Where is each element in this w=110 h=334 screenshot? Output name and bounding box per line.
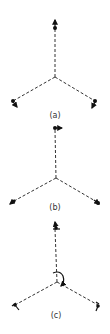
bond-right (57, 282, 98, 305)
bond-right (55, 77, 95, 101)
displacement-arrow-icon (13, 102, 17, 107)
bond-top (55, 130, 56, 178)
rotation-arc-arrow-icon (53, 272, 64, 286)
bond-left (13, 77, 55, 101)
panel-c: (c) (12, 222, 100, 320)
displacement-arrow-icon (15, 305, 19, 310)
bond-left (14, 178, 56, 201)
panel-a: (a) (11, 20, 97, 120)
panel-label: (b) (49, 203, 60, 212)
panel-label: (c) (51, 311, 62, 320)
displacement-arrow-icon (92, 102, 95, 108)
bond-right (56, 178, 97, 202)
bond-left (15, 282, 57, 305)
bond-top (55, 229, 57, 282)
vibrational-modes-diagram: (a) (b) (c) (0, 0, 110, 334)
panel-label: (a) (49, 111, 60, 120)
panel-b: (b) (10, 126, 100, 212)
